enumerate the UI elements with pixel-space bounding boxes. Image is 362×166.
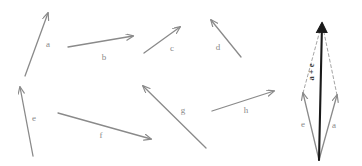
vector-c-shaft: [144, 27, 180, 53]
dashed-edge-from-a: [322, 23, 337, 95]
vector-d-label: d: [216, 42, 221, 52]
vector-b: b: [68, 36, 133, 62]
resultant-vector-shaft: [319, 24, 322, 160]
vector-f-shaft: [58, 113, 151, 139]
parallelogram-vector-a-label: a: [332, 120, 336, 130]
vector-g-label: g: [181, 105, 186, 115]
vector-d: d: [211, 20, 241, 57]
vector-a-shaft: [25, 13, 48, 76]
free-vectors-group: a b c d e f: [20, 13, 274, 156]
vector-diagram-canvas: a b c d e f: [0, 0, 362, 166]
vector-f: f: [58, 113, 151, 140]
parallelogram-sum-group: e a a + e: [301, 23, 337, 160]
resultant-vector-label: a + e: [306, 63, 316, 80]
vector-diagram-figure: a b c d e f: [0, 0, 362, 166]
vector-g-shaft: [143, 86, 206, 148]
vector-a: a: [25, 13, 50, 76]
vector-c-label: c: [170, 43, 174, 53]
vector-a-label: a: [46, 39, 50, 49]
vector-b-label: b: [102, 52, 107, 62]
dashed-edge-from-e: [303, 23, 322, 93]
vector-e: e: [20, 87, 36, 156]
vector-h-label: h: [244, 105, 249, 115]
vector-b-shaft: [68, 36, 133, 47]
parallelogram-vector-e-label: e: [301, 119, 305, 129]
vector-g: g: [143, 86, 206, 148]
vector-e-label: e: [32, 113, 36, 123]
parallelogram-vector-e-shaft: [303, 93, 319, 160]
vector-f-label: f: [100, 130, 103, 140]
vector-c: c: [144, 27, 180, 53]
vector-h: h: [212, 91, 274, 115]
